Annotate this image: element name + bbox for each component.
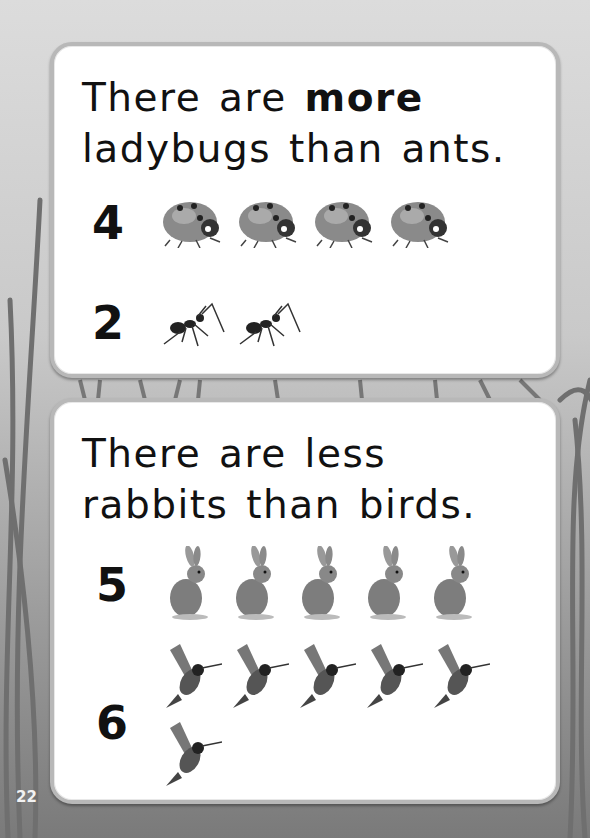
hummingbird-icon [231,642,289,710]
sentence-prefix: There are [82,75,305,120]
hummingbird-icon [365,642,423,710]
ladybug-row [160,196,454,248]
hummingbird-icon [164,720,222,788]
comparison-card-rabbits-birds: There are less rabbits than birds. 5 [50,398,560,804]
sentence-less: There are less rabbits than birds. [82,428,476,530]
ladybug-icon [236,196,302,248]
hummingbird-icon [164,642,222,710]
sentence-more: There are more ladybugs than ants. [82,72,506,174]
ant-icon [234,302,302,348]
comparison-card-ladybugs-ants: There are more ladybugs than ants. 4 [50,42,560,378]
sentence-suffix: ladybugs than ants. [82,126,506,171]
rabbit-icon [364,546,410,620]
sentence-line-1: There are less [82,431,386,476]
hummingbird-icon [432,642,490,710]
bird-count: 6 [96,696,128,750]
rabbit-row [166,546,476,620]
ladybug-icon [312,196,378,248]
bird-row [164,642,504,788]
ladybug-count: 4 [92,196,124,250]
sentence-line-2: rabbits than birds. [82,482,476,527]
rabbit-icon [232,546,278,620]
ant-row [158,302,302,348]
emphasis-word: more [305,75,424,120]
rabbit-icon [166,546,212,620]
ladybug-icon [160,196,226,248]
hummingbird-icon [298,642,356,710]
ant-count: 2 [92,296,124,350]
ant-icon [158,302,226,348]
rabbit-icon [430,546,476,620]
page-number: 22 [16,788,37,806]
rabbit-icon [298,546,344,620]
ladybug-icon [388,196,454,248]
rabbit-count: 5 [96,558,128,612]
